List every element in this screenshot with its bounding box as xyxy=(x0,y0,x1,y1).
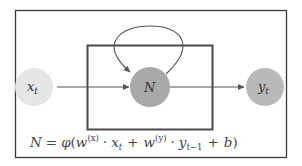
output-node: yt xyxy=(246,68,284,106)
input-node: xt xyxy=(15,68,53,106)
hidden-node: N xyxy=(130,67,170,107)
hidden-node-label: N xyxy=(143,80,156,95)
rnn-diagram: xt N yt N=φ(w(x)·xt+w(y)·yt−1+b) xyxy=(0,0,302,166)
formula: N=φ(w(x)·xt+w(y)·yt−1+b) xyxy=(29,133,238,152)
edge-self-loop xyxy=(114,26,183,74)
